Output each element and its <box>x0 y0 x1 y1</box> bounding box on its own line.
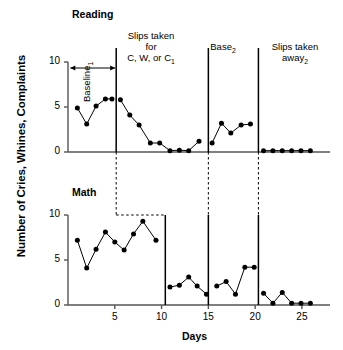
data-point-math-p3-4 <box>298 301 303 306</box>
data-point-math-p1-2 <box>186 275 191 280</box>
x-tick-label-15: 15 <box>196 311 220 322</box>
data-point-math-p1-0 <box>167 285 172 290</box>
data-point-math-p0-3 <box>103 230 108 235</box>
data-point-math-p2-3 <box>242 265 247 270</box>
data-point-math-p1-3 <box>195 284 200 289</box>
data-point-math-p0-7 <box>140 219 145 224</box>
data-point-math-p0-6 <box>131 231 136 236</box>
data-point-math-p3-2 <box>280 290 285 295</box>
series-line-math-phase1 <box>170 277 207 294</box>
data-point-math-p3-3 <box>289 301 294 306</box>
data-point-math-p1-4 <box>204 292 209 297</box>
data-point-reading-p1-2 <box>137 123 142 128</box>
y-tick-label-5: 5 <box>42 100 60 111</box>
data-point-math-p0-5 <box>122 248 127 253</box>
data-point-reading-p2-3 <box>239 123 244 128</box>
y-tick-label-10: 10 <box>42 208 60 219</box>
data-point-reading-p0-3 <box>103 96 108 101</box>
x-tick-label-10: 10 <box>150 311 174 322</box>
series-line-reading-phase0 <box>77 99 112 124</box>
data-point-reading-p3-3 <box>289 148 294 153</box>
data-point-reading-p2-2 <box>228 131 233 136</box>
baseline-arrow-head-left <box>70 65 75 70</box>
data-point-math-p3-0 <box>261 291 266 296</box>
data-point-math-p0-1 <box>84 266 89 271</box>
series-line-math-phase0 <box>77 221 156 268</box>
data-point-reading-p2-4 <box>248 122 253 127</box>
y-tick-label-0: 0 <box>42 145 60 156</box>
data-point-math-p0-4 <box>112 240 117 245</box>
data-point-reading-p3-4 <box>298 148 303 153</box>
x-tick-label-20: 20 <box>243 311 267 322</box>
data-point-reading-p1-4 <box>157 141 162 146</box>
data-point-math-p2-2 <box>233 292 238 297</box>
data-point-math-p2-4 <box>252 265 257 270</box>
y-tick-label-0: 0 <box>42 298 60 309</box>
y-tick-label-10: 10 <box>42 55 60 66</box>
x-tick-label-25: 25 <box>290 311 314 322</box>
data-point-math-p3-1 <box>270 301 275 306</box>
data-point-reading-p0-4 <box>109 96 114 101</box>
data-point-math-p0-0 <box>75 238 80 243</box>
data-point-math-p0-2 <box>94 247 99 252</box>
data-point-reading-p3-0 <box>261 148 266 153</box>
baseline-arrow-head-right <box>110 65 115 70</box>
data-point-reading-p1-8 <box>197 139 202 144</box>
series-line-math-phase3 <box>264 292 311 303</box>
data-point-reading-p3-2 <box>280 148 285 153</box>
series-line-math-phase2 <box>217 267 254 294</box>
data-point-reading-p2-0 <box>210 141 215 146</box>
data-point-reading-p0-1 <box>84 122 89 127</box>
data-point-reading-p3-5 <box>308 148 313 153</box>
data-point-math-p2-0 <box>214 284 219 289</box>
data-point-reading-p0-0 <box>75 105 80 110</box>
data-point-reading-p1-6 <box>177 148 182 153</box>
data-point-math-p2-1 <box>224 279 229 284</box>
data-point-reading-p1-0 <box>118 97 123 102</box>
data-point-reading-p3-1 <box>270 148 275 153</box>
x-tick-label-5: 5 <box>103 311 127 322</box>
y-tick-label-5: 5 <box>42 253 60 264</box>
data-point-math-p1-1 <box>177 283 182 288</box>
data-point-reading-p2-1 <box>219 121 224 126</box>
data-point-reading-p1-7 <box>186 148 191 153</box>
data-point-reading-p0-2 <box>94 104 99 109</box>
data-point-reading-p1-1 <box>127 113 132 118</box>
data-point-math-p0-8 <box>153 238 158 243</box>
data-point-reading-p1-5 <box>167 148 172 153</box>
data-point-math-p3-5 <box>308 301 313 306</box>
data-point-reading-p1-3 <box>148 141 153 146</box>
